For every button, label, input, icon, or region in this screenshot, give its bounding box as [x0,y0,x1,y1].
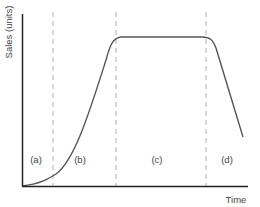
phase-label-d: (d) [221,154,233,165]
phase-label-b: (b) [74,154,86,165]
product-life-cycle-chart: Sales (units) Time (a) (b) (c) (d) [0,0,260,207]
phase-label-a: (a) [30,154,42,165]
phase-label-c: (c) [151,154,162,165]
sales-curve [22,37,243,186]
x-axis-label: Time [226,194,247,205]
y-axis-label: Sales (units) [3,6,14,59]
